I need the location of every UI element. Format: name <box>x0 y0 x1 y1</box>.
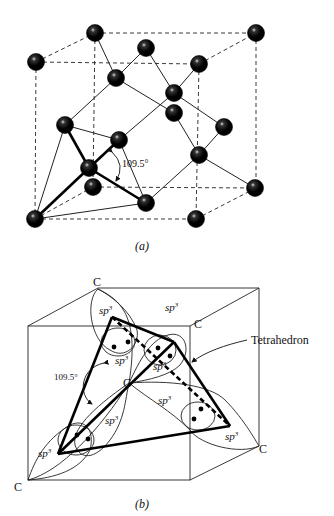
svg-text:sp3: sp3 <box>165 301 179 313</box>
figure-a-unit-cell: 109.5° (a) <box>27 25 265 254</box>
svg-text:sp3: sp3 <box>158 394 172 406</box>
angle-label-a: 109.5° <box>122 158 149 169</box>
figure-b-tetrahedron: 109.5° C C C C C sp3 sp3 sp3 sp3 sp3 sp3… <box>14 275 309 511</box>
tetrahedron-label: Tetrahedron <box>251 333 309 347</box>
carbon-label-top: C <box>93 275 101 289</box>
caption-b: (b) <box>135 497 149 511</box>
tetrahedron-callout-arrow <box>192 340 247 362</box>
svg-text:sp3: sp3 <box>115 354 129 366</box>
atoms <box>27 25 265 228</box>
tetrahedron-edges <box>58 317 230 454</box>
carbon-label-center: C <box>123 376 131 390</box>
svg-text:sp3: sp3 <box>225 430 239 442</box>
svg-text:sp3: sp3 <box>38 447 52 459</box>
angle-label-b: 109.5° <box>54 372 78 382</box>
svg-text:sp3: sp3 <box>99 304 113 316</box>
carbon-label-bottom-left: C <box>14 480 22 494</box>
angle-arc-a <box>112 152 120 181</box>
diamond-structure-figure: 109.5° (a) <box>0 0 334 516</box>
sp3-orbitals <box>28 289 259 480</box>
carbon-label-right: C <box>194 317 202 331</box>
svg-text:sp3: sp3 <box>153 360 167 372</box>
caption-a: (a) <box>135 239 149 253</box>
svg-text:sp3: sp3 <box>105 414 119 426</box>
carbon-label-bottom-right: C <box>259 442 267 456</box>
